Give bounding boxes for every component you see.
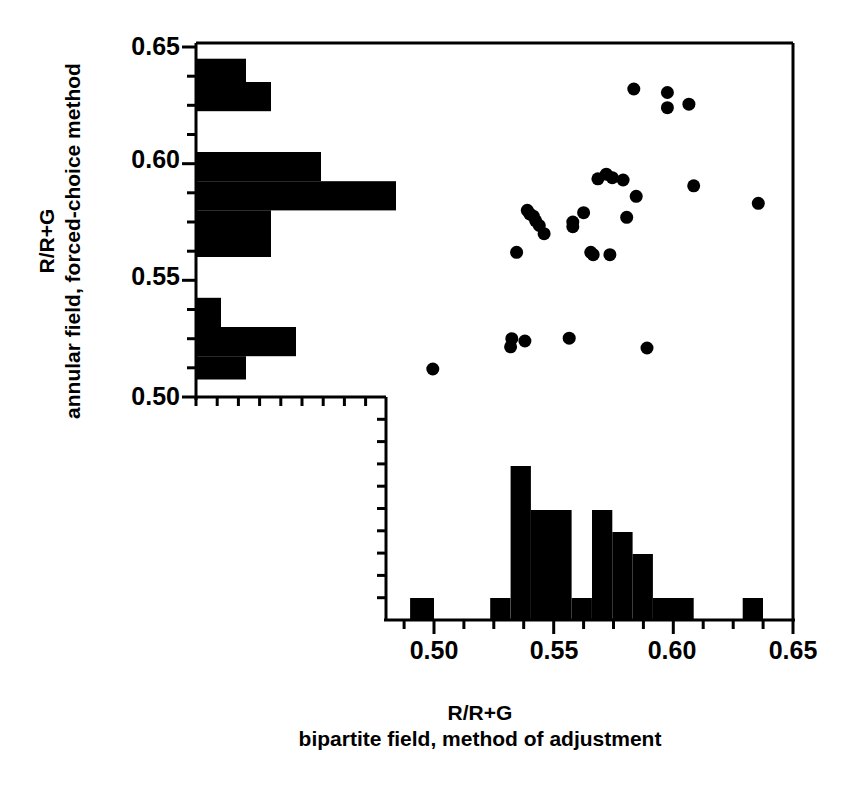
y-hist-bar — [196, 298, 221, 327]
x-axis-spine — [384, 620, 795, 634]
x-hist-bar — [410, 598, 434, 620]
y-marginal-histogram — [196, 59, 396, 380]
scatter-point — [620, 211, 633, 224]
scatter-point — [518, 335, 531, 348]
scatter-point — [627, 83, 640, 96]
y-hist-bar — [196, 82, 271, 111]
x-hist-bar — [653, 598, 694, 620]
x-marginal-histogram — [410, 466, 763, 620]
scatter-point — [504, 340, 517, 353]
scatter-point — [661, 101, 674, 114]
scatter-points — [426, 83, 765, 376]
scatter-point — [641, 342, 654, 355]
y-hist-bar — [196, 356, 246, 379]
scatter-point — [587, 248, 600, 261]
x-hist-bar — [743, 598, 763, 620]
scatter-point — [426, 363, 439, 376]
interior-axis-connector — [196, 397, 386, 620]
x-hist-bar — [490, 598, 510, 620]
x-hist-bar — [633, 554, 653, 620]
x-hist-bar — [612, 532, 632, 620]
scatter-point — [563, 332, 576, 345]
x-hist-bar — [592, 510, 612, 620]
figure-canvas: R/R+G annular field, forced-choice metho… — [0, 0, 851, 789]
scatter-point — [603, 248, 616, 261]
x-hist-bar — [511, 466, 531, 620]
scatter-point — [752, 197, 765, 210]
scatter-point — [577, 206, 590, 219]
y-hist-bar — [196, 210, 271, 257]
y-hist-bar — [196, 59, 246, 82]
scatter-point — [510, 246, 523, 259]
y-hist-bar — [196, 181, 396, 210]
scatter-point — [538, 227, 551, 240]
y-hist-bar — [196, 152, 321, 181]
x-hist-bar — [572, 598, 592, 620]
scatter-point — [682, 98, 695, 111]
scatter-point — [661, 86, 674, 99]
plot-area — [0, 0, 851, 789]
scatter-point — [617, 174, 630, 187]
scatter-point — [630, 190, 643, 203]
x-hist-bar — [531, 510, 572, 620]
scatter-point — [566, 220, 579, 233]
y-hist-bar — [196, 327, 296, 356]
scatter-point — [687, 179, 700, 192]
scatter-point — [606, 171, 619, 184]
